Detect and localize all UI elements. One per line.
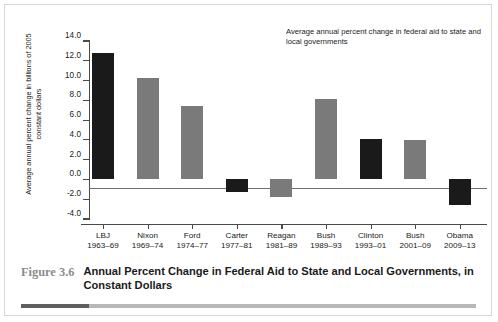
y-tick-mark	[83, 159, 89, 160]
x-tick-mark	[148, 224, 149, 229]
caption-rule-accent	[21, 304, 89, 308]
y-tick-mark	[83, 60, 89, 61]
figure-caption: Figure 3.6 Annual Percent Change in Fede…	[21, 264, 476, 292]
x-axis-label: Obama2009–13	[430, 231, 490, 252]
y-axis-line	[89, 40, 90, 220]
bar	[360, 139, 382, 180]
figure-title: Annual Percent Change in Federal Aid to …	[83, 264, 476, 292]
caption-rule	[21, 304, 476, 308]
y-tick-label: 0.0	[47, 169, 81, 178]
y-tick-mark	[83, 80, 89, 81]
y-tick-label: 8.0	[47, 90, 81, 99]
chart-area: Average annual percent change in billion…	[5, 5, 491, 255]
bar	[404, 140, 426, 180]
y-tick-mark	[83, 40, 89, 41]
y-tick-label: -2.0	[47, 189, 81, 198]
y-tick-mark	[83, 218, 89, 219]
y-tick-label: 10.0	[47, 71, 81, 80]
y-tick-label: 4.0	[47, 130, 81, 139]
y-tick-mark	[83, 100, 89, 101]
bar	[92, 53, 114, 180]
bar	[315, 99, 337, 179]
y-tick-label: 6.0	[47, 110, 81, 119]
y-tick-label: 2.0	[47, 150, 81, 159]
x-axis-label-name: Obama	[430, 231, 490, 241]
bar	[270, 179, 292, 197]
bar	[181, 106, 203, 179]
figure-container: Average annual percent change in billion…	[4, 4, 492, 316]
y-tick-mark	[83, 179, 89, 180]
y-tick-mark	[83, 120, 89, 121]
bar	[449, 179, 471, 205]
x-tick-mark	[415, 224, 416, 229]
y-tick-mark	[83, 199, 89, 200]
x-tick-mark	[192, 224, 193, 229]
y-tick-label: 14.0	[47, 31, 81, 40]
y-tick-label: 12.0	[47, 51, 81, 60]
figure-number: Figure 3.6	[21, 264, 74, 280]
x-tick-mark	[281, 224, 282, 229]
chart-annotation: Average annual percent change in federal…	[286, 27, 486, 48]
y-tick-mark	[83, 139, 89, 140]
x-tick-mark	[460, 224, 461, 229]
x-tick-mark	[237, 224, 238, 229]
x-tick-mark	[326, 224, 327, 229]
bar	[226, 179, 248, 192]
bar	[137, 78, 159, 180]
x-tick-mark	[371, 224, 372, 229]
x-axis-label-years: 2009–13	[430, 241, 490, 251]
x-axis-line	[81, 224, 487, 225]
x-tick-mark	[103, 224, 104, 229]
y-tick-label: -4.0	[47, 209, 81, 218]
